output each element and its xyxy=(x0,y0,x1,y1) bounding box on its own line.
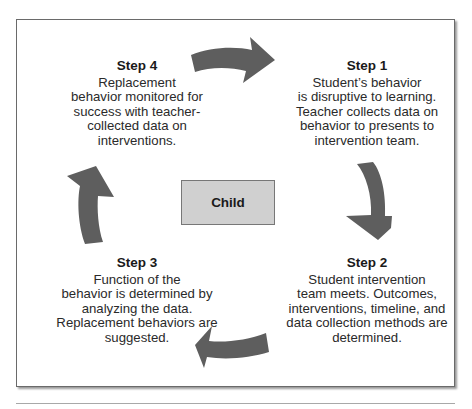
step-2-text-line: determined. xyxy=(282,331,452,346)
step-1-text-line: Teacher collects data on xyxy=(282,105,452,120)
step-3-text-line: behavior is determined by xyxy=(52,287,222,302)
step-4: Step 4 Replacement behavior monitored fo… xyxy=(52,59,222,149)
center-child-box: Child xyxy=(181,180,275,225)
step-1-text-line: Student’s behavior xyxy=(282,76,452,91)
step-4-text-line: interventions. xyxy=(52,134,222,149)
step-3-text-line: Replacement behaviors are xyxy=(52,316,222,331)
step-2: Step 2 Student intervention team meets. … xyxy=(282,256,452,346)
step-2-text-line: data collection methods are xyxy=(282,316,452,331)
step-2-text-line: team meets. Outcomes, xyxy=(282,287,452,302)
step-2-text-line: interventions, timeline, and xyxy=(282,302,452,317)
step-1: Step 1 Student’s behavior is disruptive … xyxy=(282,59,452,149)
center-child-label: Child xyxy=(211,195,245,210)
step-3-text-line: Function of the xyxy=(52,273,222,288)
step-4-text-line: behavior monitored for xyxy=(52,90,222,105)
step-3-text-line: analyzing the data. xyxy=(52,302,222,317)
arrow-step3-to-step4 xyxy=(67,166,114,244)
separator-line xyxy=(16,403,455,404)
step-3-title: Step 3 xyxy=(52,256,222,271)
step-1-text-line: behavior to presents to xyxy=(282,119,452,134)
step-1-text-line: is disruptive to learning. xyxy=(282,90,452,105)
step-3: Step 3 Function of the behavior is deter… xyxy=(52,256,222,346)
step-2-title: Step 2 xyxy=(282,256,452,271)
step-4-text-line: Replacement xyxy=(52,76,222,91)
step-4-text-line: success with teacher- xyxy=(52,105,222,120)
step-3-text-line: suggested. xyxy=(52,331,222,346)
arrow-step1-to-step2 xyxy=(346,162,392,240)
step-2-text-line: Student intervention xyxy=(282,273,452,288)
step-1-title: Step 1 xyxy=(282,59,452,74)
step-4-text-line: collected data on xyxy=(52,119,222,134)
step-1-text-line: intervention team. xyxy=(282,134,452,149)
step-4-title: Step 4 xyxy=(52,59,222,74)
